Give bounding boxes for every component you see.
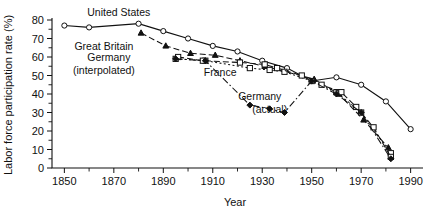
data-point — [247, 66, 252, 71]
annotation-germany-label: Germany — [87, 51, 131, 63]
data-point — [267, 67, 272, 72]
x-tick-label: 1930 — [250, 175, 274, 187]
x-tick-label: 1890 — [151, 175, 175, 187]
y-tick-label: 60 — [32, 51, 44, 63]
data-point — [408, 127, 413, 132]
y-tick-label: 10 — [32, 144, 44, 156]
y-axis-ticks — [47, 20, 52, 168]
x-axis-ticks — [64, 168, 410, 173]
annotation-germany-actual-1: Germany — [238, 90, 282, 102]
data-point — [235, 49, 240, 54]
data-point — [299, 73, 304, 78]
data-point — [282, 69, 287, 74]
data-point — [87, 25, 92, 30]
x-tick-label: 1990 — [398, 175, 422, 187]
annotation-united-states: United States — [87, 6, 150, 18]
annotation-interpolated-label: (interpolated) — [73, 64, 135, 76]
data-point — [185, 36, 190, 41]
y-tick-label: 40 — [32, 88, 44, 100]
x-tick-label: 1870 — [102, 175, 126, 187]
y-tick-label: 20 — [32, 125, 44, 137]
data-point — [163, 43, 169, 48]
y-tick-label: 80 — [32, 14, 44, 26]
x-tick-label: 1850 — [52, 175, 76, 187]
data-point — [161, 29, 166, 34]
y-tick-label: 30 — [32, 107, 44, 119]
x-tick-label: 1950 — [299, 175, 323, 187]
x-axis-title: Year — [224, 196, 247, 208]
data-point — [383, 99, 388, 104]
x-axis-tick-labels: 18501870189019101930195019701990 — [52, 175, 423, 187]
y-axis-tick-labels: 01020304050607080 — [32, 14, 44, 174]
data-point — [359, 82, 364, 87]
y-tick-label: 70 — [32, 33, 44, 45]
data-point — [334, 75, 339, 80]
data-point — [62, 23, 67, 28]
series-annotations: United StatesGreat BritainGermany(interp… — [73, 6, 287, 114]
x-tick-label: 1970 — [349, 175, 373, 187]
data-point — [136, 21, 141, 26]
y-tick-label: 50 — [32, 70, 44, 82]
annotation-france: France — [204, 66, 237, 78]
data-point — [138, 30, 144, 35]
data-point — [210, 43, 215, 48]
data-point — [188, 50, 194, 55]
data-point — [274, 66, 279, 71]
y-tick-label: 0 — [38, 162, 44, 174]
annotation-germany-actual-2: (actual) — [252, 103, 287, 115]
line-chart: 18501870189019101930195019701990 0102030… — [0, 0, 434, 211]
chart-container: 18501870189019101930195019701990 0102030… — [0, 0, 434, 211]
y-axis-title: Labor force participation rate (%) — [2, 15, 14, 175]
x-tick-label: 1910 — [201, 175, 225, 187]
data-point — [262, 62, 267, 67]
data-point — [237, 60, 242, 65]
